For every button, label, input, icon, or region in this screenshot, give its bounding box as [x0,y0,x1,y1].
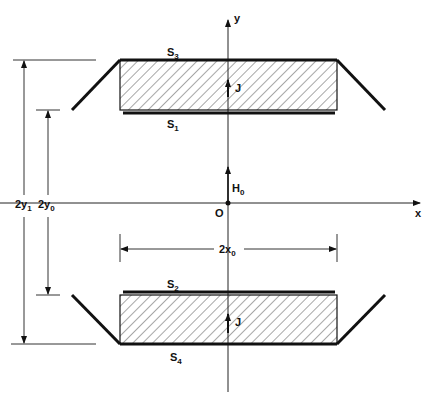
dimension-inner-label: 2y0 [38,198,55,213]
field-h0: H0 [228,167,245,203]
x-axis: x [0,203,422,219]
dimension-2y1: 2y1 [11,60,96,344]
x-axis-label: x [415,207,422,219]
dimension-outer-label: 2y1 [15,198,32,213]
surface-s4-label: S4 [170,351,182,366]
field-label: H0 [232,182,245,197]
surface-s1-label: S1 [167,118,179,133]
y-axis-label: y [234,12,241,24]
current-label-top: J [235,82,241,94]
current-label-bottom: J [235,316,241,328]
diagram-canvas: y x O H0 J S3 S1 J S2 S4 [0,0,435,398]
origin-label: O [215,207,224,219]
